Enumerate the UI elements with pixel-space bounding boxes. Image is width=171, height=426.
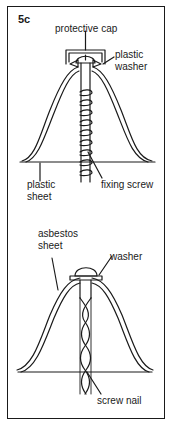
label-screw-nail: screw nail	[97, 395, 141, 406]
label-plastic-sheet-line2: sheet	[27, 191, 51, 202]
label-plastic-washer-line2: washer	[115, 61, 147, 72]
asbestos-sheet-leader	[52, 258, 58, 290]
protective-cap-shape	[66, 31, 105, 67]
screw-nail-shape	[70, 268, 102, 394]
top-corrugated-sheet	[20, 67, 155, 162]
label-plastic-washer-line1: plastic	[115, 49, 143, 60]
label-asbestos-sheet-line1: asbestos	[38, 228, 78, 239]
fixing-screw-shape	[80, 63, 92, 182]
label-washer: washer	[110, 251, 142, 262]
figure-number: 5c	[18, 14, 30, 25]
label-fixing-screw: fixing screw	[101, 179, 153, 190]
label-plastic-sheet-line1: plastic	[27, 179, 55, 190]
label-asbestos-sheet-line2: sheet	[38, 240, 62, 251]
label-protective-cap: protective cap	[55, 23, 117, 34]
bottom-corrugated-sheet	[17, 278, 153, 372]
